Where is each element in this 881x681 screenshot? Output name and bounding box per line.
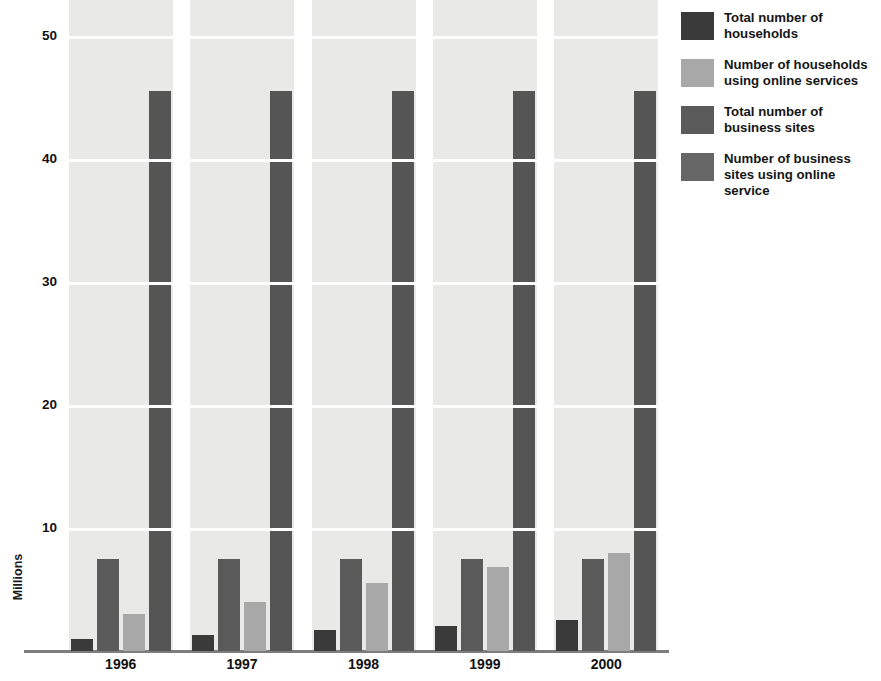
bar bbox=[192, 635, 214, 651]
y-axis-tick-label: 50 bbox=[17, 29, 57, 43]
legend-item-label: Total number of households bbox=[724, 10, 881, 42]
legend-item-label: Number of households using online servic… bbox=[724, 57, 881, 89]
x-axis-tick-label: 1996 bbox=[105, 656, 136, 672]
bar bbox=[634, 91, 656, 651]
bar bbox=[218, 559, 240, 651]
bar bbox=[435, 626, 457, 651]
plot-area bbox=[62, 0, 669, 651]
bar bbox=[513, 91, 535, 651]
bar bbox=[340, 559, 362, 651]
x-axis-tick-label: 2000 bbox=[591, 656, 622, 672]
bar bbox=[270, 91, 292, 651]
y-axis-tick-label: 40 bbox=[17, 152, 57, 166]
bar bbox=[123, 614, 145, 651]
y-axis-tick-label: 20 bbox=[17, 398, 57, 412]
bar bbox=[461, 559, 483, 651]
legend-item: Number of households using online servic… bbox=[681, 57, 881, 91]
bar bbox=[97, 559, 119, 651]
legend-item-label: Number of business sites using online se… bbox=[724, 151, 881, 199]
bar bbox=[366, 583, 388, 651]
x-axis-tick-label: 1997 bbox=[227, 656, 258, 672]
bar bbox=[244, 602, 266, 651]
x-axis-tick-label: 1999 bbox=[469, 656, 500, 672]
bar bbox=[149, 91, 171, 651]
legend-swatch-total-business-sites bbox=[681, 106, 714, 134]
legend-swatch-business-sites-online bbox=[681, 153, 714, 181]
bar-chart: Millions 1020304050 19961997199819992000… bbox=[0, 0, 881, 681]
x-axis-tick-label: 1998 bbox=[348, 656, 379, 672]
legend-item: Number of business sites using online se… bbox=[681, 151, 881, 199]
legend-swatch-households-online bbox=[681, 59, 714, 87]
bar bbox=[314, 630, 336, 651]
legend-swatch-total-households bbox=[681, 12, 714, 40]
legend-item: Total number of business sites bbox=[681, 104, 881, 138]
bar bbox=[556, 620, 578, 651]
chart-legend: Total number of householdsNumber of hous… bbox=[681, 10, 881, 212]
bar bbox=[487, 567, 509, 651]
y-axis-tick-label: 10 bbox=[17, 521, 57, 535]
bar bbox=[608, 553, 630, 651]
bar bbox=[582, 559, 604, 651]
bar bbox=[71, 639, 93, 651]
y-axis-tick-labels: 1020304050 bbox=[0, 0, 57, 681]
legend-item: Total number of households bbox=[681, 10, 881, 44]
y-axis-tick-label: 30 bbox=[17, 275, 57, 289]
bar bbox=[392, 91, 414, 651]
legend-item-label: Total number of business sites bbox=[724, 104, 881, 136]
